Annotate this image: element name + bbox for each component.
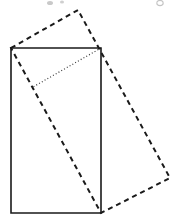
scan-speck-left-icon bbox=[47, 1, 53, 5]
scan-speck-center-icon bbox=[60, 0, 64, 3]
figure-background bbox=[0, 0, 178, 222]
geometry-diagram-svg bbox=[0, 0, 178, 222]
geometry-figure-canvas bbox=[0, 0, 178, 222]
